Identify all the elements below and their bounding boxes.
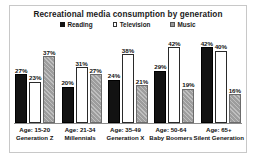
bar-reading: 42% [201,32,213,123]
plot-area: 27% 23% 37% 20% 31% [12,32,244,124]
chart-title: Recreational media consumption by genera… [10,10,246,19]
bar-rect-reading [108,80,120,123]
x-axis-generation-label: Silent Generation [194,134,244,142]
bar-group: 42% 40% 16% [198,32,244,123]
x-axis-generation-label: Millennials [57,134,102,142]
legend-item-television: Television [113,21,151,28]
bar-rect-television [215,51,227,123]
bar-group: 20% 31% 27% [58,32,104,123]
bar-value-label: 42% [201,40,213,47]
hatched-square-icon [170,22,175,27]
chart-legend: Reading Television Music [10,21,246,28]
bar-value-label: 19% [182,81,194,88]
bar-group: 24% 38% 21% [105,32,151,123]
x-axis-tick-2: Age: 35-49 Generation X [103,126,148,142]
bar-reading: 27% [15,32,27,123]
bar-rect-music [90,74,102,123]
bar-value-label: 20% [61,79,73,86]
x-axis-generation-label: Generation Z [12,134,57,142]
x-axis-age-label: Age: 15-20 [12,126,57,134]
bar-value-label: 38% [122,47,134,54]
bar-music: 16% [229,32,241,123]
bar-television: 31% [76,32,88,123]
bar-television: 40% [215,32,227,123]
bar-rect-music [229,94,241,123]
bar-value-label: 27% [89,67,101,74]
legend-item-music: Music [170,21,195,28]
bar-music: 21% [136,32,148,123]
bar-group: 29% 42% 19% [151,32,197,123]
bar-music: 19% [182,32,194,123]
bar-value-label: 21% [136,78,148,85]
bar-value-label: 31% [75,60,87,67]
outline-square-icon [113,22,118,27]
bar-rect-music [43,56,55,123]
bar-group: 27% 23% 37% [12,32,58,123]
bar-value-label: 16% [229,87,241,94]
legend-label-reading: Reading [67,21,92,28]
bar-reading: 24% [108,32,120,123]
x-axis-generation-label: Baby Boomers [148,134,193,142]
bar-rect-reading [62,87,74,123]
bar-reading: 20% [62,32,74,123]
bar-rect-reading [15,74,27,123]
x-axis-tick-0: Age: 15-20 Generation Z [12,126,57,142]
bar-music: 37% [43,32,55,123]
x-axis-age-label: Age: 50-64 [148,126,193,134]
bar-rect-music [182,89,194,123]
bar-rect-television [168,47,180,123]
bar-value-label: 37% [43,49,55,56]
legend-label-music: Music [177,21,195,28]
bar-rect-television [76,67,88,123]
x-axis-age-label: Age: 21-34 [57,126,102,134]
bar-reading: 29% [154,32,166,123]
x-axis-tick-4: Age: 65+ Silent Generation [194,126,244,142]
bar-value-label: 29% [154,63,166,70]
bar-rect-reading [201,47,213,123]
legend-item-reading: Reading [60,21,92,28]
legend-label-television: Television [120,21,151,28]
solid-square-icon [60,22,65,27]
bar-value-label: 42% [168,40,180,47]
x-axis-generation-label: Generation X [103,134,148,142]
bar-rect-television [29,82,41,124]
bar-value-label: 24% [108,72,120,79]
bar-value-label: 27% [15,67,27,74]
bar-television: 42% [168,32,180,123]
x-axis-age-label: Age: 35-49 [103,126,148,134]
bar-television: 38% [122,32,134,123]
x-axis-line [14,123,242,124]
bar-rect-music [136,85,148,123]
x-axis-tick-1: Age: 21-34 Millennials [57,126,102,142]
bar-groups: 27% 23% 37% 20% 31% [12,32,244,123]
bar-value-label: 23% [29,74,41,81]
x-axis-age-label: Age: 65+ [194,126,244,134]
bar-music: 27% [90,32,102,123]
bar-television: 23% [29,32,41,123]
bar-rect-television [122,54,134,123]
x-axis-tick-3: Age: 50-64 Baby Boomers [148,126,193,142]
bar-value-label: 40% [215,43,227,50]
chart-container: Recreational media consumption by genera… [9,5,247,153]
x-axis-labels: Age: 15-20 Generation Z Age: 21-34 Mille… [12,126,244,142]
bar-rect-reading [154,71,166,123]
